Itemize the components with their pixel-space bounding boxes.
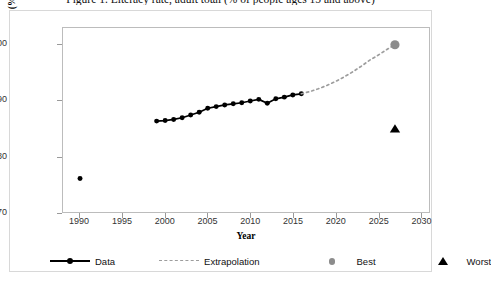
x-tick-mark [165, 213, 166, 218]
x-tick-mark [79, 213, 80, 218]
x-tick-mark [122, 213, 123, 218]
chart-legend: Data Extrapolation Best Worst [14, 252, 427, 270]
y-tick-mark [57, 100, 62, 101]
legend-label-extrapolation: Extrapolation [204, 256, 259, 267]
y-tick-label: 100 [0, 38, 7, 48]
x-tick-mark [250, 213, 251, 218]
legend-item-extrapolation[interactable]: Extrapolation [159, 255, 259, 267]
legend-item-worst[interactable]: Worst [422, 255, 491, 267]
legend-label-data: Data [95, 256, 115, 267]
legend-key-best-icon [312, 255, 352, 267]
x-tick-mark [379, 213, 380, 218]
plot-canvas [63, 28, 429, 212]
legend-key-worst-icon [422, 255, 462, 267]
figure-caption: Figure 1. Literacy rate, adult total (% … [0, 0, 441, 5]
x-tick-mark [207, 213, 208, 218]
legend-key-data-icon [50, 255, 90, 267]
x-tick-mark [293, 213, 294, 218]
y-tick-label: 70 [0, 207, 7, 217]
legend-item-data[interactable]: Data [50, 255, 115, 267]
x-axis-title: Year [62, 231, 430, 241]
y-tick-label: 90 [0, 94, 7, 104]
x-tick-mark [421, 213, 422, 218]
legend-item-best[interactable]: Best [312, 255, 376, 267]
legend-label-best: Best [357, 256, 376, 267]
y-tick-mark [57, 44, 62, 45]
legend-key-extrapolation-icon [159, 255, 199, 267]
y-axis-title-line2: (% of people ages 15 and above) [7, 0, 18, 34]
legend-label-worst: Worst [467, 256, 491, 267]
y-tick-label: 80 [0, 151, 7, 161]
x-tick-mark [336, 213, 337, 218]
y-axis-title: Literacy rate, adult total (% of people … [0, 0, 18, 34]
plot-area [62, 27, 430, 213]
y-tick-mark [57, 157, 62, 158]
y-tick-mark [57, 213, 62, 214]
